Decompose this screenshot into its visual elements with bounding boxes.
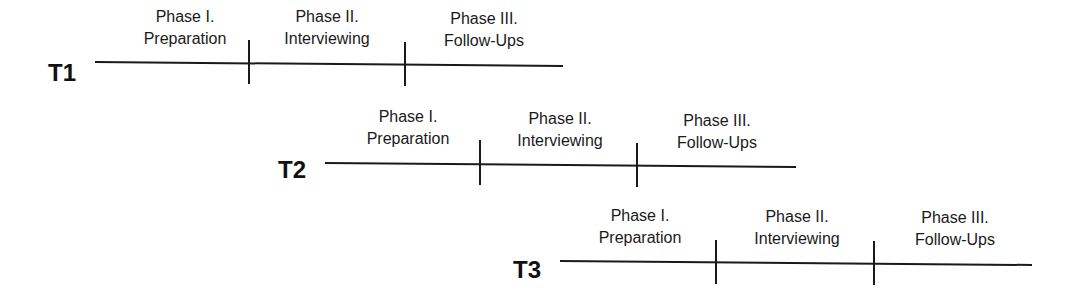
timeline-axis xyxy=(325,163,796,167)
phase-2-name: Interviewing xyxy=(754,230,839,247)
phase-3-title: Phase III. xyxy=(683,112,751,129)
phase-1-title: Phase I. xyxy=(156,8,215,25)
phase-2-title: Phase II. xyxy=(765,208,828,225)
phase-2-name: Interviewing xyxy=(517,132,602,149)
phase-3-name: Follow-Ups xyxy=(677,134,757,151)
phase-2-title: Phase II. xyxy=(528,110,591,127)
phase-1-title: Phase I. xyxy=(379,108,438,125)
phase-3-title: Phase III. xyxy=(450,10,518,27)
phase-1-title: Phase I. xyxy=(611,207,670,224)
timeline-axis xyxy=(95,62,563,66)
track-t1: T1 Phase I. Preparation Phase II. Interv… xyxy=(48,8,563,86)
track-label: T1 xyxy=(48,59,76,86)
phase-2-title: Phase II. xyxy=(295,8,358,25)
timeline-diagram: T1 Phase I. Preparation Phase II. Interv… xyxy=(0,0,1076,299)
track-t3: T3 Phase I. Preparation Phase II. Interv… xyxy=(513,207,1032,285)
phase-2-name: Interviewing xyxy=(284,30,369,47)
track-label: T2 xyxy=(278,156,306,183)
phase-1-name: Preparation xyxy=(599,229,682,246)
phase-1-name: Preparation xyxy=(367,130,450,147)
phase-3-title: Phase III. xyxy=(921,209,989,226)
phase-3-name: Follow-Ups xyxy=(915,231,995,248)
timeline-axis xyxy=(560,261,1032,265)
track-label: T3 xyxy=(513,256,541,283)
phase-1-name: Preparation xyxy=(144,30,227,47)
phase-3-name: Follow-Ups xyxy=(444,32,524,49)
track-t2: T2 Phase I. Preparation Phase II. Interv… xyxy=(278,108,796,187)
